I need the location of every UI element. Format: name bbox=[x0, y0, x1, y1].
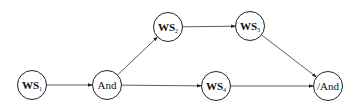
node-ws2: WS2 bbox=[154, 13, 183, 42]
nodes: WS1AndWS2WS3WS4/And bbox=[18, 12, 343, 101]
edges bbox=[47, 26, 317, 86]
edge-ws3-to-endand bbox=[261, 35, 316, 77]
node-ws3: WS3 bbox=[236, 12, 265, 41]
edge-ws2-to-ws3 bbox=[182, 26, 235, 27]
edge-and-to-ws2 bbox=[118, 37, 158, 75]
node-label: /And bbox=[317, 80, 340, 92]
node-ws1: WS1 bbox=[18, 71, 47, 100]
node-label: WS1 bbox=[22, 79, 42, 92]
node-label: WS2 bbox=[158, 21, 178, 34]
edge-and-to-ws4 bbox=[121, 85, 201, 86]
node-label: WS3 bbox=[240, 20, 260, 33]
node-label: WS4 bbox=[206, 80, 226, 93]
node-label: And bbox=[98, 79, 117, 91]
node-ws4: WS4 bbox=[202, 72, 231, 101]
workflow-diagram: WS1AndWS2WS3WS4/And bbox=[0, 0, 358, 111]
node-endand: /And bbox=[314, 72, 343, 101]
node-and: And bbox=[93, 71, 122, 100]
